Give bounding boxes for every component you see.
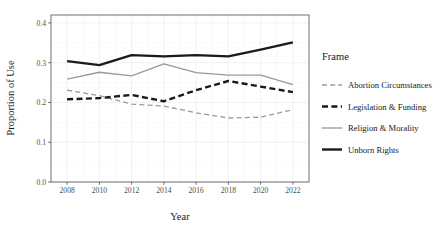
x-tick-label: 2020 <box>253 186 268 195</box>
legend-item-0[interactable]: Abortion Circumstances <box>322 80 432 90</box>
y-tick-label: 0.1 <box>37 138 47 147</box>
x-tick-label: 2022 <box>285 186 300 195</box>
chart-figure: 20082010201220142016201820202022 0.00.10… <box>0 0 441 227</box>
legend-item-1[interactable]: Legislation & Funding <box>322 102 427 112</box>
legend-label: Religion & Morality <box>348 123 419 133</box>
line-chart: 20082010201220142016201820202022 0.00.10… <box>0 0 441 227</box>
x-tick-label: 2018 <box>221 186 236 195</box>
y-tick-label: 0.0 <box>37 178 47 187</box>
x-tick-label: 2012 <box>124 186 139 195</box>
x-tick-label: 2014 <box>156 186 171 195</box>
legend-label: Legislation & Funding <box>348 102 427 112</box>
y-axis-title: Proportion of Use <box>5 60 16 136</box>
legend-label: Unborn Rights <box>348 145 400 155</box>
legend-label: Abortion Circumstances <box>348 80 432 90</box>
y-tick-label: 0.3 <box>37 59 47 68</box>
y-tick-label: 0.4 <box>37 19 47 28</box>
y-tick-label: 0.2 <box>37 98 47 107</box>
x-axis-title: Year <box>170 211 190 222</box>
x-tick-label: 2016 <box>189 186 204 195</box>
legend-item-3[interactable]: Unborn Rights <box>322 145 400 155</box>
legend-title: Frame <box>322 51 349 62</box>
x-tick-labels: 20082010201220142016201820202022 <box>60 186 301 195</box>
legend-item-2[interactable]: Religion & Morality <box>322 123 419 133</box>
x-tick-label: 2010 <box>92 186 107 195</box>
y-tick-labels: 0.00.10.20.30.4 <box>37 19 47 187</box>
legend[interactable]: Abortion CircumstancesLegislation & Fund… <box>322 80 432 155</box>
x-tick-label: 2008 <box>60 186 75 195</box>
